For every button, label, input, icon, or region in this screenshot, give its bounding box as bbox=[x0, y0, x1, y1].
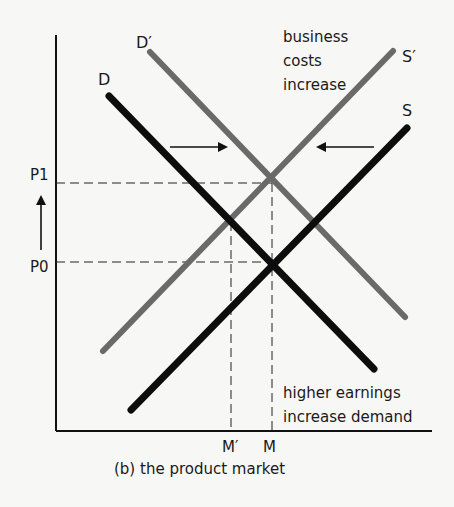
label-s: S bbox=[402, 101, 412, 120]
label-m-prime: M′ bbox=[222, 438, 239, 456]
label-p1: P1 bbox=[30, 166, 49, 184]
figure-caption: (b) the product market bbox=[114, 460, 285, 478]
demand-annotation-line2: increase demand bbox=[283, 408, 413, 426]
supply-annotation-line1: business bbox=[283, 28, 349, 46]
label-d: D bbox=[98, 70, 110, 89]
label-d-prime: D′ bbox=[136, 33, 152, 52]
curve-s bbox=[131, 128, 407, 410]
supply-annotation-line2: costs bbox=[283, 52, 322, 70]
product-market-diagram: D D′ S′ S P1 P0 M′ M business costs incr… bbox=[0, 0, 454, 507]
label-m: M bbox=[263, 438, 276, 456]
curve-d bbox=[109, 96, 374, 369]
curve-d-prime bbox=[150, 52, 405, 317]
supply-annotation-line3: increase bbox=[283, 76, 346, 94]
label-p0: P0 bbox=[30, 258, 49, 276]
curve-s-prime bbox=[103, 51, 393, 351]
label-s-prime: S′ bbox=[402, 47, 416, 66]
demand-annotation-line1: higher earnings bbox=[283, 384, 401, 402]
